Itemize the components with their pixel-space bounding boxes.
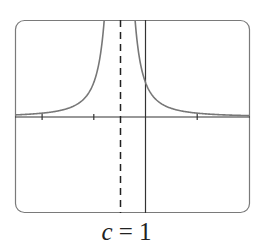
curves	[16, 21, 249, 116]
equals-sign: =	[113, 218, 140, 245]
function-curve	[16, 21, 104, 115]
parameter-value: 1	[139, 218, 152, 245]
function-curve	[135, 21, 249, 116]
graph	[0, 0, 253, 249]
parameter-caption: c = 1	[0, 218, 253, 246]
parameter-name: c	[101, 218, 112, 245]
axes	[0, 20, 250, 213]
